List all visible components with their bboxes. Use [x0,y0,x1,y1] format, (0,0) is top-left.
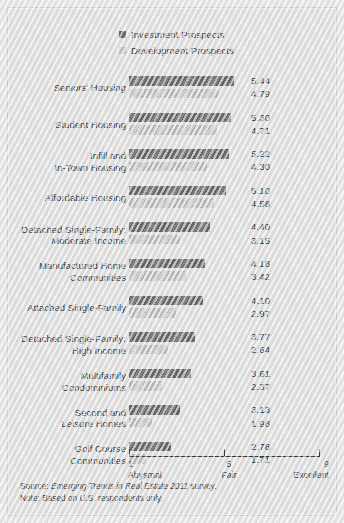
value-label-development: 4.71 [251,124,295,137]
axis-tick-number-5: 5 [221,459,236,470]
bar-investment [129,113,231,123]
axis-label-group-5: 5 Fair [221,459,236,481]
value-label-development: 1.98 [251,417,295,430]
legend-item-investment: Investment Prospects [119,27,234,41]
chart-row: Infill and In-Town Housing5.224.30 [8,143,338,180]
value-label-development: 2.97 [251,307,295,320]
value-label-investment: 5.10 [251,184,295,197]
category-label: Student Housing [0,119,126,131]
category-label: Detached Single-Family: High Income [0,333,126,356]
bar-group [129,186,338,210]
bar-development [129,235,180,245]
category-label: Second and Leisure Homes [0,406,126,429]
bar-investment [129,149,229,159]
value-label-investment: 5.22 [251,147,295,160]
value-label-investment: 5.30 [251,111,295,124]
bar-group [129,76,338,100]
value-label-development: 4.30 [251,160,295,173]
bar-group [129,405,338,429]
bar-investment [129,405,180,415]
axis-tick-5 [224,449,225,457]
category-label: Seniors’ Housing [0,83,126,95]
axis-tick-1 [129,449,130,457]
category-label: Attached Single-Family [0,302,126,314]
legend-label-development: Development Prospects [131,45,234,56]
value-label-development: 3.42 [251,270,295,283]
value-label-investment: 3.77 [251,330,295,343]
value-labels: 4.183.42 [251,257,295,283]
bar-development [129,89,219,99]
axis-tick-9 [319,449,320,457]
value-label-development: 2.64 [251,343,295,356]
value-label-investment: 5.44 [251,74,295,87]
legend-item-development: Development Prospects [119,43,234,57]
chart-row: Detached Single-Family: High Income3.772… [8,326,338,363]
chart-footnote: Source: Emerging Trends in Real Estate 2… [20,481,320,504]
footnote-source-title: Emerging Trends in Real Estate 2011 [51,481,188,491]
bar-investment [129,186,226,196]
axis-tick-number-9: 9 [293,459,329,470]
chart-row: Seniors’ Housing5.444.79 [8,70,338,107]
chart-x-axis [129,449,319,457]
value-label-development: 2.37 [251,380,295,393]
legend-swatch-investment-icon [119,31,126,38]
bar-group [129,149,338,173]
value-labels: 4.403.15 [251,220,295,246]
value-labels: 3.772.64 [251,330,295,356]
bar-investment [129,369,191,379]
bar-development [129,381,162,391]
value-labels: 3.612.37 [251,367,295,393]
value-label-development: 4.58 [251,197,295,210]
footnote-source-prefix: Source: [20,481,51,491]
chart-legend: Investment Prospects Development Prospec… [119,27,234,59]
category-label: Infill and In-Town Housing [0,150,126,173]
chart-row: Affordable Housing5.104.58 [8,180,338,217]
value-label-investment: 3.61 [251,367,295,380]
bar-development [129,418,152,428]
chart-panel: Investment Prospects Development Prospec… [7,7,337,516]
bar-development [129,345,168,355]
chart-row: Manufactured Home Communities4.183.42 [8,253,338,290]
axis-label-group-1: 1 Abysmal [128,459,162,481]
bar-group [129,259,338,283]
footnote-source: Source: Emerging Trends in Real Estate 2… [20,481,320,493]
axis-tick-number-1: 1 [128,459,162,470]
axis-tick-word-5: Fair [221,470,236,481]
value-labels: 5.224.30 [251,147,295,173]
bar-group [129,296,338,320]
axis-label-group-9: 9 Excellent [293,459,329,481]
value-labels: 3.131.98 [251,403,295,429]
category-label: Manufactured Home Communities [0,260,126,283]
bar-development [129,308,176,318]
bar-investment [129,76,234,86]
bar-investment [129,222,210,232]
value-label-development: 4.79 [251,87,295,100]
bar-development [129,198,214,208]
footnote-source-suffix: survey. [188,481,216,491]
bar-group [129,369,338,393]
bar-development [129,162,207,172]
category-label: Golf Course Communities [0,443,126,466]
axis-tick-word-1: Abysmal [128,470,162,481]
category-label: Affordable Housing [0,192,126,204]
category-label: Detached Single-Family: Moderate Income [0,223,126,246]
footnote-note: Note: Based on U.S. respondents only. [20,493,320,505]
legend-swatch-development-icon [119,47,126,54]
value-labels: 4.102.97 [251,294,295,320]
bar-group [129,332,338,356]
value-label-development: 3.15 [251,234,295,247]
chart-row: Student Housing5.304.71 [8,107,338,144]
chart-row: Detached Single-Family: Moderate Income4… [8,216,338,253]
chart-rows: Seniors’ Housing5.444.79Student Housing5… [8,70,338,473]
value-label-investment: 4.40 [251,220,295,233]
bar-development [129,271,186,281]
category-label: Multifamily Condominiums [0,370,126,393]
axis-tick-word-9: Excellent [293,470,329,481]
value-label-investment: 4.10 [251,294,295,307]
bar-development [129,125,217,135]
chart-row: Attached Single-Family4.102.97 [8,290,338,327]
chart-figure: Investment Prospects Development Prospec… [0,0,344,523]
legend-label-investment: Investment Prospects [131,29,224,40]
bar-investment [129,332,195,342]
value-labels: 5.304.71 [251,111,295,137]
